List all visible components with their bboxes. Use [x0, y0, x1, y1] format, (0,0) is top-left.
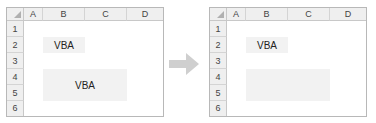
row-header-5[interactable]: 5 — [210, 85, 227, 101]
column-header-b[interactable]: B — [246, 8, 288, 21]
column-header-d[interactable]: D — [127, 8, 163, 21]
select-all-triangle-icon — [217, 11, 224, 18]
column-header-c[interactable]: C — [85, 8, 127, 21]
row-header-4[interactable]: 4 — [7, 69, 24, 85]
cell-b2[interactable]: VBA — [43, 37, 85, 53]
worksheet-before: A B C D 1 2 3 4 5 6 VBA VBA — [6, 7, 164, 117]
row-header-6[interactable]: 6 — [210, 101, 227, 116]
cell-b2[interactable]: VBA — [246, 37, 288, 53]
row-header-2[interactable]: 2 — [210, 37, 227, 53]
column-header-b[interactable]: B — [43, 8, 85, 21]
column-header-d[interactable]: D — [330, 8, 366, 21]
merged-cell-b4-c5[interactable]: VBA — [43, 69, 127, 101]
select-all-corner[interactable] — [210, 8, 227, 21]
column-header-c[interactable]: C — [288, 8, 330, 21]
column-header-a[interactable]: A — [24, 8, 43, 21]
row-header-1[interactable]: 1 — [7, 21, 24, 37]
select-all-corner[interactable] — [7, 8, 24, 21]
row-header-1[interactable]: 1 — [210, 21, 227, 37]
row-header-4[interactable]: 4 — [210, 69, 227, 85]
merged-cell-b4-c5[interactable] — [246, 69, 330, 101]
row-header-5[interactable]: 5 — [7, 85, 24, 101]
column-header-a[interactable]: A — [227, 8, 246, 21]
row-header-3[interactable]: 3 — [7, 53, 24, 69]
row-header-3[interactable]: 3 — [210, 53, 227, 69]
right-arrow-icon — [169, 52, 199, 76]
row-header-6[interactable]: 6 — [7, 101, 24, 116]
worksheet-after: A B C D 1 2 3 4 5 6 VBA — [209, 7, 367, 117]
select-all-triangle-icon — [14, 11, 21, 18]
row-header-2[interactable]: 2 — [7, 37, 24, 53]
